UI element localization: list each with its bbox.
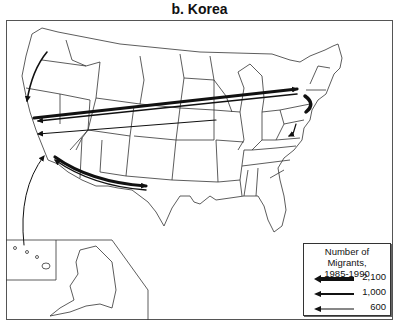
legend: Number of Migrants, 1985-1990 2,100 1,00…: [303, 243, 391, 316]
thick-arrow-icon: [312, 273, 356, 285]
flow-ca-to-ny: [34, 89, 297, 118]
legend-item-2100: 2,100: [312, 271, 388, 283]
flow-wa-to-ca: [27, 52, 47, 101]
flow-hi-to-ca: [23, 156, 44, 245]
flow-md-to-va: [289, 124, 296, 136]
thin-arrow-icon: [312, 303, 356, 315]
legend-title-line1: Number of Migrants,: [304, 246, 390, 268]
legend-item-600: 600: [312, 301, 388, 313]
flow-il-to-ca: [38, 120, 216, 134]
medium-arrow-icon: [312, 288, 356, 300]
inset-frame: [6, 240, 148, 320]
legend-item-1000: 1,000: [312, 286, 388, 298]
flow-ny-to-ca: [38, 94, 297, 121]
flow-ny-to-nj: [305, 96, 311, 112]
